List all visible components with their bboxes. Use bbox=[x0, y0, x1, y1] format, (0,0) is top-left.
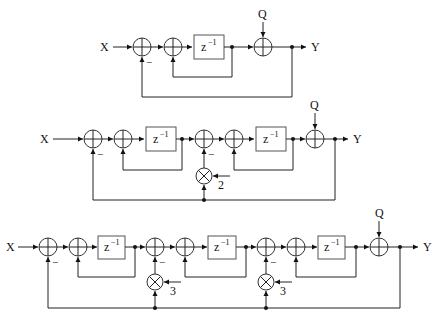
input-label: X bbox=[100, 40, 109, 54]
svg-text:z: z bbox=[214, 240, 219, 254]
output-label: Y bbox=[423, 240, 432, 254]
multiplier-icon bbox=[147, 274, 163, 290]
output-label: Y bbox=[353, 132, 362, 146]
delay-block: z −1 bbox=[194, 35, 224, 59]
block-diagram-canvas: X − z −1 Q Y X bbox=[0, 0, 438, 328]
svg-text:−1: −1 bbox=[111, 238, 120, 247]
svg-text:−1: −1 bbox=[221, 238, 230, 247]
summer-icon bbox=[69, 238, 87, 256]
summer-icon bbox=[39, 238, 57, 256]
summer-icon bbox=[176, 238, 194, 256]
multiplier-icon bbox=[258, 274, 274, 290]
summer-icon bbox=[287, 238, 305, 256]
summer-icon bbox=[164, 38, 182, 56]
svg-text:−1: −1 bbox=[160, 130, 169, 139]
delay-block: z −1 bbox=[98, 236, 125, 259]
diagram-third-order: X − z −1 − bbox=[6, 206, 432, 310]
svg-text:z: z bbox=[263, 132, 268, 146]
summer-icon bbox=[146, 238, 164, 256]
output-label: Y bbox=[311, 40, 320, 54]
minus-sign: − bbox=[159, 256, 165, 268]
svg-text:z: z bbox=[324, 240, 329, 254]
gain-label: 3 bbox=[170, 284, 176, 298]
diagram-first-order: X − z −1 Q Y bbox=[100, 7, 320, 97]
noise-label: Q bbox=[310, 98, 319, 112]
diagram-second-order: X − z −1 − bbox=[40, 98, 362, 202]
minus-sign: − bbox=[52, 256, 58, 268]
delay-block: z −1 bbox=[256, 127, 286, 151]
gain-label: 3 bbox=[280, 284, 286, 298]
summer-icon bbox=[114, 130, 132, 148]
gain-label: 2 bbox=[218, 178, 224, 192]
multiplier-icon bbox=[196, 168, 212, 184]
noise-label: Q bbox=[375, 206, 384, 220]
summer-icon bbox=[195, 130, 213, 148]
delay-block: z −1 bbox=[208, 236, 236, 259]
summer-icon bbox=[370, 238, 388, 256]
svg-text:−1: −1 bbox=[208, 38, 217, 47]
summer-icon bbox=[133, 38, 151, 56]
summer-icon bbox=[257, 238, 275, 256]
minus-sign: − bbox=[146, 56, 152, 68]
noise-label: Q bbox=[258, 7, 267, 21]
summer-icon bbox=[306, 130, 324, 148]
input-label: X bbox=[40, 132, 49, 146]
minus-sign: − bbox=[97, 148, 103, 160]
summer-icon bbox=[84, 130, 102, 148]
delay-block: z −1 bbox=[146, 127, 176, 151]
svg-text:−1: −1 bbox=[270, 130, 279, 139]
svg-text:z: z bbox=[104, 240, 109, 254]
svg-text:z: z bbox=[153, 132, 158, 146]
delay-block: z −1 bbox=[318, 236, 345, 259]
svg-text:−1: −1 bbox=[331, 238, 340, 247]
input-label: X bbox=[6, 240, 15, 254]
svg-text:z: z bbox=[201, 40, 206, 54]
summer-icon bbox=[225, 130, 243, 148]
summer-icon bbox=[254, 38, 272, 56]
minus-sign: − bbox=[270, 256, 276, 268]
minus-sign: − bbox=[208, 148, 214, 160]
